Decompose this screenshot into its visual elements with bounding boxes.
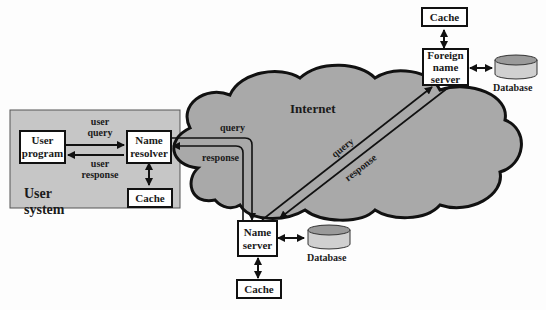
name-resolver-label-2: resolver <box>130 147 168 159</box>
foreign-label-1: Foreign <box>427 49 463 61</box>
user-system-title-2: system <box>24 202 64 217</box>
name-server-cache-box: Cache <box>236 279 282 299</box>
user-response-line1: user <box>91 158 109 169</box>
user-program-label: User <box>31 134 53 146</box>
foreign-label-3: server <box>431 73 460 85</box>
user-program-box: Userprogram <box>19 130 66 164</box>
foreign-label-2: name <box>433 61 459 73</box>
foreign-name-server-box: Foreignnameserver <box>422 48 469 86</box>
user-query-line1: user <box>91 116 109 127</box>
user-system-title-1: User <box>24 186 52 201</box>
internet-label: Internet <box>290 102 336 116</box>
diagram-graphics <box>0 0 546 310</box>
dns-diagram: Userprogram Nameresolver Cache userquery… <box>0 0 546 310</box>
query-label-left: query <box>220 122 245 133</box>
resolver-cache-label: Cache <box>135 192 164 205</box>
name-server-db-label: Database <box>307 252 346 263</box>
user-query-label: userquery <box>80 116 120 138</box>
name-resolver-box: Nameresolver <box>126 130 172 164</box>
user-program-label-2: program <box>22 147 63 159</box>
name-server-label-1: Name <box>244 226 272 238</box>
user-system-title: Usersystem <box>24 186 64 218</box>
name-server-box: Nameserver <box>237 220 278 257</box>
name-server-label-2: server <box>243 239 272 251</box>
name-server-cache-label: Cache <box>244 283 273 296</box>
foreign-cache-label: Cache <box>430 11 459 24</box>
database-icon <box>495 55 537 79</box>
name-resolver-label: Name <box>135 134 163 146</box>
user-response-label: userresponse <box>76 158 124 180</box>
user-response-line2: response <box>81 169 118 180</box>
foreign-db-label: Database <box>493 82 532 93</box>
resolver-cache-box: Cache <box>127 188 173 208</box>
foreign-cache-box: Cache <box>421 7 468 27</box>
user-query-line2: query <box>88 127 113 138</box>
database-icon <box>308 225 350 249</box>
response-label-left: response <box>202 152 239 163</box>
